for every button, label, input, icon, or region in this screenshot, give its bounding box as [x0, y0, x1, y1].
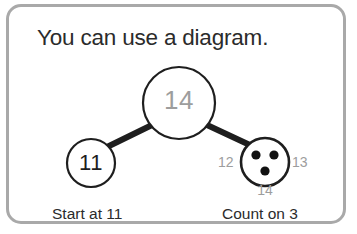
count-on-label-14: 14 — [241, 183, 289, 197]
caption-count-on: Count on 3 — [222, 206, 298, 222]
part-right-circle — [241, 138, 289, 186]
part-left-value-label: 11 — [67, 152, 115, 174]
caption-start-at: Start at 11 — [52, 206, 122, 222]
counter-dot-3 — [260, 166, 269, 175]
count-on-label-13: 13 — [292, 155, 308, 169]
connector-left — [107, 125, 152, 147]
counter-dot-2 — [269, 150, 278, 159]
worksheet-card: You can use a diagram. 14 11 12 13 14 St… — [6, 4, 346, 224]
count-on-label-12: 12 — [218, 155, 234, 169]
connector-right — [207, 125, 252, 146]
total-value-label: 14 — [142, 87, 216, 113]
counter-dot-1 — [251, 150, 260, 159]
page-title: You can use a diagram. — [37, 25, 268, 51]
